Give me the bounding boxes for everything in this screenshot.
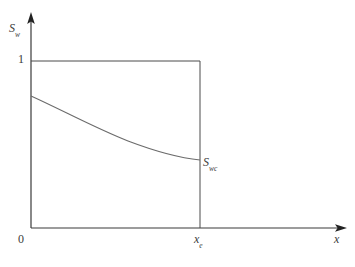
saturation-curve — [31, 96, 200, 160]
x-tick-label-xe: xe — [194, 232, 203, 248]
curve-end-label-subscript: wc — [209, 164, 217, 173]
curve-end-label: Swc — [203, 155, 217, 171]
figure-container: Sw 1 0 xe x Swc — [0, 0, 355, 267]
x-tick-label-subscript: e — [199, 241, 202, 250]
plot-svg — [0, 0, 355, 267]
y-tick-label-one: 1 — [18, 52, 24, 67]
x-axis-label: x — [334, 232, 339, 247]
origin-label: 0 — [18, 232, 24, 247]
y-axis-label-subscript: w — [15, 30, 20, 39]
y-axis-label: Sw — [9, 21, 20, 37]
